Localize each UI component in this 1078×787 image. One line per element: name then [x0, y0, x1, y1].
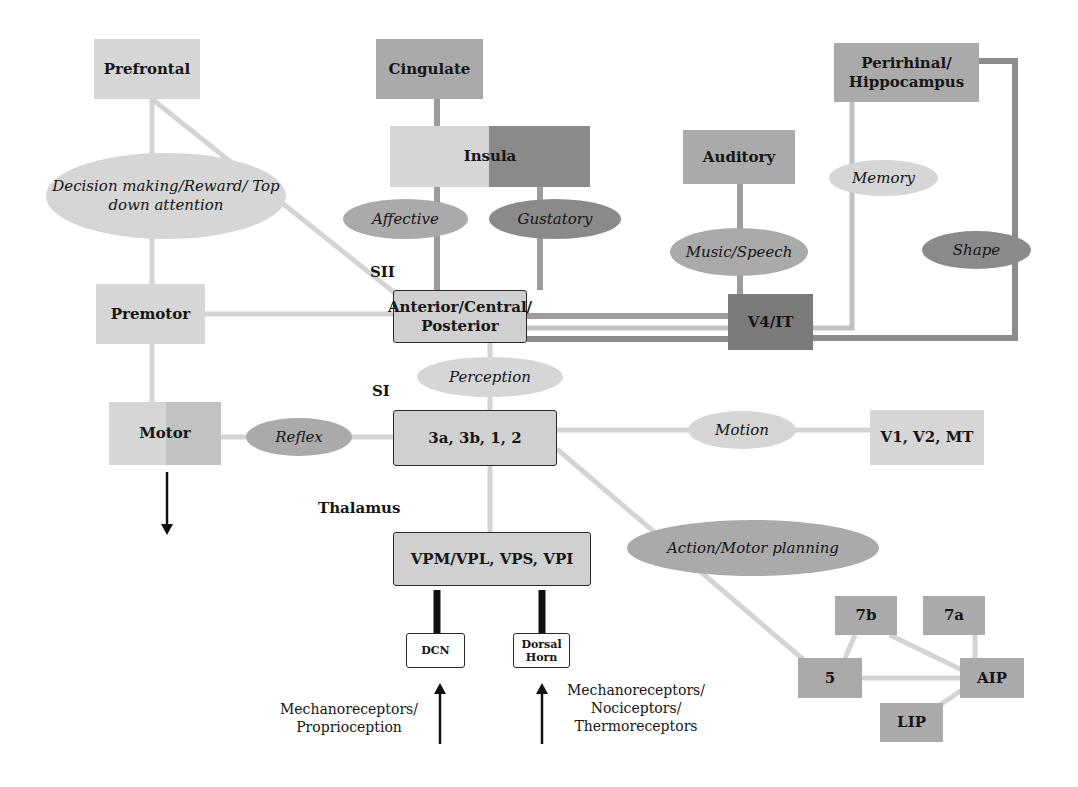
nociceptor-input-label: Mechanoreceptors/ Nociceptors/ Thermorec…	[556, 681, 716, 735]
lip-region: LIP	[880, 703, 943, 742]
auditory-region: Auditory	[683, 130, 795, 184]
dorsal-horn-box: Dorsal Horn	[513, 633, 570, 668]
area-7b-region: 7b	[835, 596, 897, 635]
thalamus-label: Thalamus	[318, 499, 400, 517]
motion-function: Motion	[688, 411, 796, 449]
area-5-region: 5	[798, 658, 862, 698]
prefrontal-region: Prefrontal	[94, 39, 200, 99]
area-7a-region: 7a	[923, 596, 985, 635]
sii-label: SII	[370, 263, 395, 281]
insula-region: Insula	[390, 126, 590, 187]
dcn-box: DCN	[406, 633, 465, 668]
reflex-function: Reflex	[246, 418, 352, 456]
perception-function: Perception	[417, 357, 563, 397]
motor-region: Motor	[109, 402, 221, 465]
sii-anterior-central-posterior-box: Anterior/Central/ Posterior	[393, 290, 527, 343]
v4-it-region: V4/IT	[728, 294, 813, 350]
perirhinal-hippocampus-region: Perirhinal/ Hippocampus	[834, 43, 979, 102]
action-motor-planning-function: Action/Motor planning	[627, 520, 879, 576]
premotor-region: Premotor	[96, 284, 205, 344]
music-speech-function: Music/Speech	[670, 228, 808, 276]
thalamus-nuclei-box: VPM/VPL, VPS, VPI	[393, 532, 591, 586]
gustatory-function: Gustatory	[489, 199, 621, 239]
connection-lines	[0, 0, 1078, 787]
si-label: SI	[372, 382, 390, 400]
decision-making-function: Decision making/Reward/ Top down attenti…	[46, 153, 286, 239]
si-areas-box: 3a, 3b, 1, 2	[393, 410, 557, 466]
proprioception-input-label: Mechanoreceptors/ Proprioception	[268, 700, 430, 736]
affective-function: Affective	[343, 199, 468, 239]
cingulate-region: Cingulate	[376, 39, 483, 99]
aip-region: AIP	[960, 658, 1024, 698]
memory-function: Memory	[829, 160, 938, 196]
v1-v2-mt-region: V1, V2, MT	[870, 410, 984, 465]
shape-function: Shape	[922, 231, 1031, 269]
